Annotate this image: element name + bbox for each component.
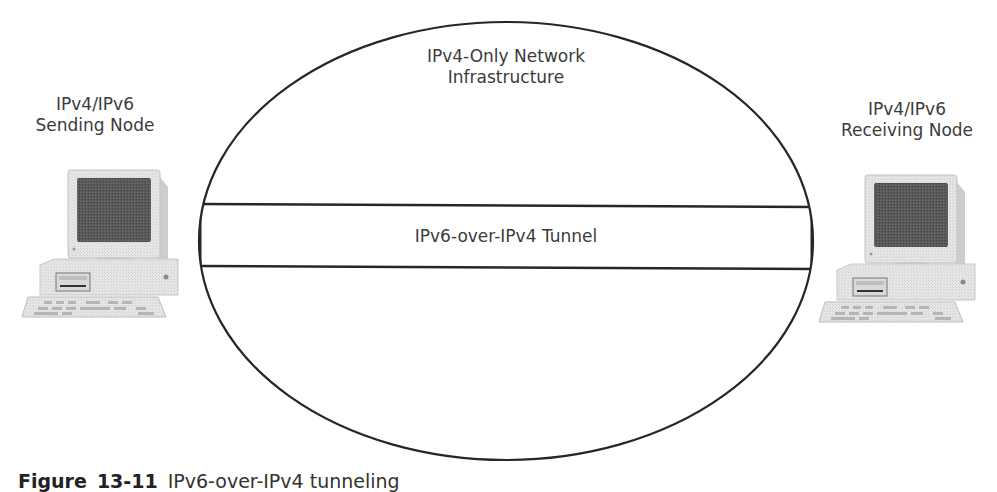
sender-label-line2: Sending Node	[10, 115, 180, 136]
receiver-label-line1: IPv4/IPv6	[822, 99, 992, 120]
sender-node-label: IPv4/IPv6 Sending Node	[10, 94, 180, 136]
receiver-node-label: IPv4/IPv6 Receiving Node	[822, 99, 992, 141]
tunnel-label: IPv6-over-IPv4 Tunnel	[380, 226, 632, 247]
caption-text: IPv6-over-IPv4 tunneling	[168, 470, 400, 492]
desktop-computer-icon	[815, 170, 980, 330]
caption-number: 13-11	[97, 470, 158, 492]
network-label: IPv4-Only Network Infrastructure	[406, 46, 606, 88]
sender-label-line1: IPv4/IPv6	[10, 94, 180, 115]
desktop-computer-icon	[18, 165, 183, 325]
receiver-label-line2: Receiving Node	[822, 120, 992, 141]
figure-caption: Figure13-11IPv6-over-IPv4 tunneling	[18, 470, 400, 492]
caption-prefix: Figure	[18, 470, 87, 492]
network-label-line1: IPv4-Only Network	[406, 46, 606, 67]
network-label-line2: Infrastructure	[406, 67, 606, 88]
